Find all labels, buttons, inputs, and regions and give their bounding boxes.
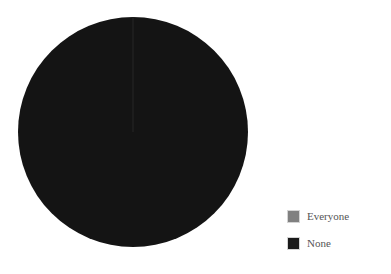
chart-canvas: Everyone None (0, 0, 391, 274)
pie-plot-area (0, 0, 270, 274)
legend-swatch-none (287, 237, 300, 250)
chart-legend: Everyone None (287, 203, 391, 257)
legend-label-everyone: Everyone (307, 210, 349, 223)
legend-item-none[interactable]: None (287, 230, 391, 257)
legend-label-none: None (307, 237, 331, 250)
legend-item-everyone[interactable]: Everyone (287, 203, 391, 230)
pie-chart-svg (0, 0, 270, 274)
legend-swatch-everyone (287, 210, 300, 223)
